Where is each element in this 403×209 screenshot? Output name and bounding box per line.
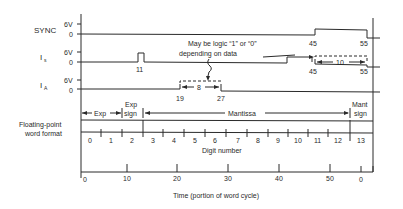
is-duration-10: 10: [336, 59, 344, 66]
ia-0-label: 0: [69, 87, 73, 94]
sync-label: SYNC: [34, 26, 56, 35]
word-format-label-2: word format: [24, 130, 62, 137]
is-label: I: [40, 53, 42, 62]
field-mant-sign-1: Mant: [352, 101, 368, 108]
sync-0-label: 0: [69, 31, 73, 38]
is-edge-55: 55: [360, 68, 368, 75]
digit-1: 1: [109, 137, 113, 144]
ia-waveform: [221, 84, 380, 92]
time-tick-30: 30: [224, 175, 232, 182]
digit-10: 10: [294, 137, 302, 144]
time-tick-0-end: 0: [359, 176, 363, 183]
is-edge-45: 45: [309, 68, 317, 75]
field-mant-sign-2: sign: [354, 110, 367, 118]
ia-signal: I A 6V 0 8 19 27: [40, 77, 380, 102]
is-pulse-11: 11: [136, 66, 143, 73]
time-axis-label: Time (portion of word cycle): [173, 192, 259, 200]
digit-5: 5: [193, 137, 197, 144]
word-format-label-1: Floating-point: [19, 121, 61, 129]
digit-9: 9: [276, 137, 280, 144]
digit-7: 7: [236, 137, 240, 144]
is-0-label: 0: [69, 59, 73, 66]
sync-6v-label: 6V: [64, 21, 73, 28]
digit-11: 11: [314, 137, 321, 144]
time-axis: 0 10 20 30 40 50 0 Time (portion of word…: [81, 164, 373, 200]
digit-12: 12: [334, 137, 342, 144]
annotation-line1: May be logic “1” or “0”: [188, 40, 257, 48]
ia-edge-19: 19: [176, 95, 184, 102]
digit-labels: 0 1 2 3 4 5 6 7 8 9 10 11 12 13: [88, 137, 365, 144]
ia-dashed-pulse: [180, 81, 221, 83]
field-exp: Exp: [94, 110, 106, 118]
annotation-line2: depending on data: [179, 50, 237, 58]
field-exp-sign-1: Exp: [125, 101, 137, 109]
digit-number-label: Digit number: [202, 147, 242, 155]
digit-3: 3: [151, 137, 155, 144]
digit-0: 0: [88, 137, 92, 144]
digit-6: 6: [213, 137, 217, 144]
digit-4: 4: [172, 137, 176, 144]
data-annotation: May be logic “1” or “0” depending on dat…: [179, 40, 257, 81]
timing-diagram: SYNC 6V 0 45 55 I s 6V 0 11 45 55 10 M: [0, 0, 403, 209]
digit-8: 8: [256, 137, 260, 144]
ia-6v-label: 6V: [64, 77, 73, 84]
time-tick-20: 20: [173, 175, 181, 182]
ia-subscript: A: [44, 85, 48, 91]
sync-edge-45: 45: [309, 40, 317, 47]
field-mantissa: Mantissa: [228, 110, 256, 117]
field-exp-sign-2: sign: [124, 110, 137, 118]
time-tick-0: 0: [83, 176, 87, 183]
annotation-squiggle: [208, 59, 212, 76]
ia-label: I: [40, 81, 42, 90]
is-subscript: s: [44, 57, 47, 63]
word-format: Floating-point word format Exp Exp sign …: [19, 101, 373, 155]
is-6v-label: 6V: [64, 49, 73, 56]
time-tick-40: 40: [275, 175, 283, 182]
time-tick-10: 10: [123, 175, 131, 182]
ia-duration-8: 8: [197, 84, 201, 91]
time-tick-50: 50: [326, 175, 334, 182]
digit-13: 13: [357, 137, 365, 144]
sync-edge-55: 55: [360, 40, 368, 47]
sync-waveform: [81, 29, 380, 38]
digit-2: 2: [130, 137, 134, 144]
ia-edge-27: 27: [217, 95, 225, 102]
